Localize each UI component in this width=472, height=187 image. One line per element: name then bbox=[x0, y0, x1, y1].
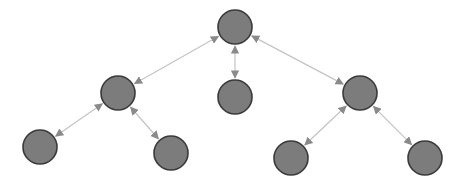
edge-l1-right-to-l2-right-left bbox=[305, 106, 346, 145]
node-l2-left-left bbox=[23, 130, 57, 164]
edge-l1-right-to-l2-right-right bbox=[373, 106, 411, 144]
nodes-layer bbox=[23, 10, 442, 175]
node-l1-left bbox=[101, 76, 135, 110]
node-l2-left-right bbox=[154, 136, 188, 170]
node-root bbox=[218, 10, 252, 44]
edge-root-to-l1-right bbox=[252, 36, 343, 84]
node-l1-middle bbox=[218, 80, 252, 114]
edge-root-to-l1-left bbox=[135, 36, 219, 83]
node-l2-right-left bbox=[274, 141, 308, 175]
edge-l1-left-to-l2-left-left bbox=[56, 104, 103, 136]
edge-l1-left-to-l2-left-right bbox=[131, 107, 159, 139]
node-l1-right bbox=[343, 76, 377, 110]
tree-diagram bbox=[0, 0, 472, 187]
node-l2-right-right bbox=[408, 141, 442, 175]
